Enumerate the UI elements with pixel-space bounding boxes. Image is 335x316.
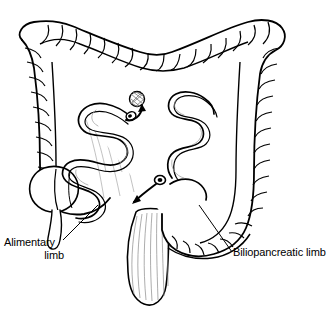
alimentary-limb-label-line1: Alimentary bbox=[4, 236, 55, 248]
biliopancreatic-limb-label: Biliopancreatic limb bbox=[233, 246, 326, 259]
cecum bbox=[30, 167, 79, 213]
alimentary-limb-label-line2: limb bbox=[4, 249, 64, 262]
medical-illustration-figure: Alimentary limb Biliopancreatic limb bbox=[0, 0, 335, 316]
alimentary-leader-line bbox=[63, 205, 98, 240]
intestinal-anatomy-diagram bbox=[0, 0, 335, 316]
alimentary-limb-label: Alimentary limb bbox=[4, 236, 64, 261]
